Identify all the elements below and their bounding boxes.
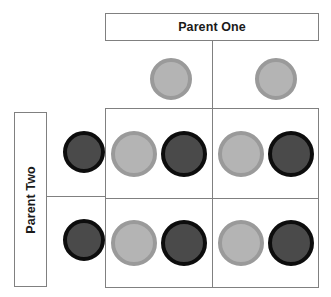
offspring-cell [212, 198, 318, 287]
light-allele-circle [150, 58, 192, 100]
dark-allele-circle [63, 219, 105, 261]
parent-one-gamete-2 [252, 55, 300, 103]
light-allele-circle [255, 58, 297, 100]
light-allele-circle [111, 131, 157, 177]
offspring-cell [106, 109, 212, 198]
dark-allele-circle [268, 131, 314, 177]
parent-two-label: Parent Two [24, 166, 38, 233]
parent-two-gamete-2 [60, 216, 108, 264]
offspring-grid [105, 108, 319, 288]
parent-two-gamete-1 [60, 128, 108, 176]
light-allele-circle [218, 220, 264, 266]
light-allele-circle [218, 131, 264, 177]
light-allele-circle [111, 220, 157, 266]
parent-one-divider-line [212, 41, 213, 108]
parent-one-label-box: Parent One [105, 13, 319, 41]
dark-allele-circle [161, 220, 207, 266]
punnett-square-diagram: Parent One Parent Two [0, 0, 331, 297]
parent-two-label-box: Parent Two [14, 112, 47, 287]
offspring-cell [212, 109, 318, 198]
dark-allele-circle [63, 131, 105, 173]
dark-allele-circle [268, 220, 314, 266]
offspring-cell [106, 198, 212, 287]
dark-allele-circle [161, 131, 207, 177]
parent-one-gamete-1 [147, 55, 195, 103]
parent-one-label: Parent One [178, 20, 246, 34]
parent-two-divider-line [47, 196, 105, 197]
